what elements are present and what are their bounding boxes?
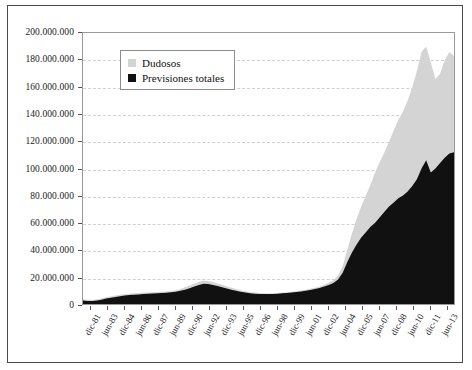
- x-tick-mark: [362, 306, 363, 310]
- x-tick-mark: [243, 306, 244, 310]
- x-tick-mark: [175, 306, 176, 310]
- legend-label-dudosos: Dudosos: [142, 57, 181, 69]
- x-tick-mark: [430, 306, 431, 310]
- x-tick-mark: [124, 306, 125, 310]
- chart-legend: Dudosos Previsiones totales: [120, 50, 235, 90]
- y-tick-label: 200.000.000: [25, 27, 74, 37]
- x-tick-mark: [260, 306, 261, 310]
- y-tick-label: 140.000.000: [25, 109, 74, 119]
- chart-figure: 020.000.00040.000.00060.000.00080.000.00…: [7, 5, 463, 363]
- legend-item-dudosos: Dudosos: [128, 55, 224, 70]
- y-tick-label: 100.000.000: [25, 164, 74, 174]
- x-tick-mark: [141, 306, 142, 310]
- x-tick-mark: [345, 306, 346, 310]
- y-tick-label: 20.000.000: [30, 273, 74, 283]
- x-tick-mark: [107, 306, 108, 310]
- legend-swatch-dudosos: [128, 59, 136, 67]
- x-tick-mark: [413, 306, 414, 310]
- x-tick-mark: [277, 306, 278, 310]
- x-axis: dic-81jun-83dic-84jun-86dic-87jun-89dic-…: [82, 306, 455, 366]
- x-tick-mark: [311, 306, 312, 310]
- x-tick-mark: [294, 306, 295, 310]
- x-tick-mark: [90, 306, 91, 310]
- x-tick-mark: [379, 306, 380, 310]
- y-tick-label: 0: [69, 300, 74, 310]
- legend-item-previsiones-totales: Previsiones totales: [128, 70, 224, 85]
- y-tick-label: 160.000.000: [25, 82, 74, 92]
- y-tick-label: 180.000.000: [25, 54, 74, 64]
- y-axis: 020.000.00040.000.00060.000.00080.000.00…: [8, 6, 82, 336]
- legend-label-previsiones-totales: Previsiones totales: [142, 72, 224, 84]
- legend-swatch-previsiones-totales: [128, 74, 136, 82]
- y-tick-label: 80.000.000: [30, 191, 74, 201]
- y-tick-label: 120.000.000: [25, 136, 74, 146]
- x-tick-mark: [226, 306, 227, 310]
- x-tick-mark: [158, 306, 159, 310]
- x-tick-mark: [209, 306, 210, 310]
- x-tick-mark: [192, 306, 193, 310]
- y-tick-label: 40.000.000: [30, 245, 74, 255]
- x-tick-mark: [447, 306, 448, 310]
- x-tick-mark: [328, 306, 329, 310]
- y-tick-label: 60.000.000: [30, 218, 74, 228]
- x-tick-mark: [396, 306, 397, 310]
